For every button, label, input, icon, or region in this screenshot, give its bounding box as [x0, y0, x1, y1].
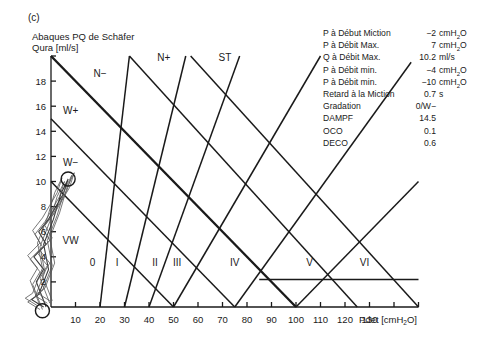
x-tick-label: 90: [266, 314, 277, 325]
nomogram-line: [100, 56, 129, 307]
zone-label: 0: [90, 257, 96, 268]
y-tick-label: 16: [35, 101, 46, 112]
parameter-value: 0/W−: [396, 100, 436, 112]
zone-label: W+: [63, 105, 78, 116]
x-tick-label: 70: [217, 314, 228, 325]
parameter-label: P à Débit min.: [323, 64, 377, 76]
y-tick-label: 4: [41, 251, 46, 262]
parameter-label: DAMPF: [323, 112, 353, 124]
x-tick-label: 60: [193, 314, 204, 325]
parameter-unit: s: [439, 88, 443, 100]
parameter-value: 10.2: [396, 51, 436, 63]
nomogram-line: [174, 56, 321, 307]
y-tick-label: 14: [35, 126, 46, 137]
nomogram-line: [296, 182, 419, 308]
y-tick-label: 6: [41, 226, 46, 237]
chart-title: Abaques PQ de Schäfer: [32, 31, 134, 42]
parameter-label: DECO: [323, 137, 348, 149]
x-tick-label: 10: [70, 314, 81, 325]
zone-label: N+: [157, 52, 170, 63]
parameter-value: −2: [396, 27, 436, 39]
nomogram-line: [51, 56, 296, 307]
y-tick-label: 10: [35, 176, 46, 187]
parameter-label: P à Débit Max.: [323, 39, 379, 51]
parameter-value: 14.5: [396, 112, 436, 124]
x-tick-label: 80: [242, 314, 253, 325]
y-tick-label: 18: [35, 76, 46, 87]
parameter-label: Q à Débit Max.: [323, 51, 380, 63]
zone-label: IV: [230, 257, 240, 268]
parameter-label: OCO: [323, 125, 343, 137]
y-axis-label: Qura [ml/s]: [32, 42, 78, 53]
parameter-value: 0.6: [396, 137, 436, 149]
parameter-label: P à Début Miction: [323, 27, 391, 39]
x-tick-label: 40: [144, 314, 155, 325]
panel-label: (c): [28, 12, 40, 23]
x-tick-label: 30: [119, 314, 130, 325]
parameter-value: 0.1: [396, 125, 436, 137]
parameter-label: P à Débit min.: [323, 76, 377, 88]
zone-label: III: [173, 257, 181, 268]
zone-label: I: [116, 257, 119, 268]
y-tick-label: 2: [41, 276, 46, 287]
zone-label: VI: [360, 257, 369, 268]
parameter-unit: ml/s: [439, 51, 455, 63]
x-tick-label: 120: [337, 314, 353, 325]
zone-label: W−: [63, 157, 78, 168]
x-tick-label: 100: [288, 314, 304, 325]
parameter-value: 0.7: [396, 88, 436, 100]
parameter-value: −10: [396, 76, 436, 88]
y-tick-label: 8: [41, 201, 46, 212]
zone-label: II: [152, 257, 158, 268]
parameter-label: Gradation: [323, 100, 361, 112]
y-tick-label: 12: [35, 151, 46, 162]
zone-label: VW: [63, 235, 80, 246]
zone-label: ST: [219, 52, 232, 63]
parameter-value: −4: [396, 64, 436, 76]
x-tick-label: 50: [168, 314, 179, 325]
x-axis-label: Pdet [cmH2O]: [359, 314, 417, 326]
x-tick-label: 110: [313, 314, 328, 325]
zone-label: N−: [93, 68, 106, 79]
x-tick-label: 20: [95, 314, 106, 325]
zone-label: V: [306, 257, 313, 268]
parameter-value: 7: [396, 39, 436, 51]
parameter-label: Retard à la Miction: [323, 88, 395, 100]
nomogram-line: [125, 56, 186, 307]
